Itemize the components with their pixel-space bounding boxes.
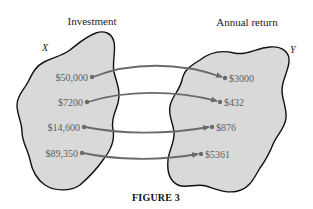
y-element-1: $3000 [229, 73, 254, 84]
dot-x-4 [80, 151, 84, 155]
set-x-blob [17, 32, 119, 190]
function-mapping-diagram: Investment Annual return X Y $50,000 $72… [0, 0, 313, 209]
x-element-4: $89,350 [46, 148, 79, 159]
x-element-2: $7200 [58, 97, 83, 108]
figure-caption: FIGURE 3 [132, 192, 180, 203]
dot-x-1 [90, 75, 94, 79]
set-x-variable: X [42, 42, 48, 53]
y-element-4: $5361 [205, 149, 230, 160]
dot-y-3 [210, 125, 214, 129]
diagram-graphics [0, 0, 313, 209]
dot-x-3 [82, 125, 86, 129]
x-element-1: $50,000 [56, 72, 89, 83]
dot-y-1 [223, 76, 227, 80]
y-element-3: $876 [216, 122, 236, 133]
dot-y-2 [218, 100, 222, 104]
set-y-variable: Y [290, 44, 296, 55]
set-x-title: Investment [68, 15, 117, 27]
x-element-3: $14,600 [48, 122, 81, 133]
set-y-title: Annual return [216, 16, 277, 28]
dot-x-2 [85, 100, 89, 104]
dot-y-4 [199, 152, 203, 156]
y-element-2: $432 [224, 97, 244, 108]
